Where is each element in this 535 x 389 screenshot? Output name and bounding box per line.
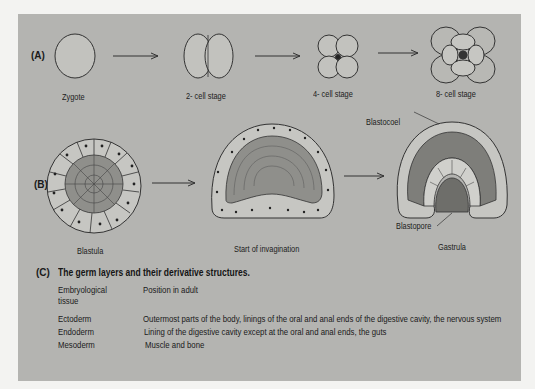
eight-cell-illustration (431, 27, 495, 83)
germ-layers-title: The germ layers and their derivative str… (58, 267, 250, 278)
section-b-label: (B) (34, 179, 48, 190)
section-c-label: (C) (36, 267, 50, 278)
blastopore-pointer (437, 213, 452, 226)
blastocoel-pointer (414, 112, 439, 124)
section-a-label: (A) (31, 50, 45, 61)
annotation-blastopore: Blastopore (396, 221, 431, 231)
table-row-tissue: Mesoderm (58, 339, 95, 350)
stage-label-blastula: Blastula (77, 246, 103, 256)
table-row-position: Muscle and bone (145, 339, 204, 350)
table-row-position: Lining of the digestive cavity except at… (144, 326, 387, 337)
two-cell-illustration (184, 34, 233, 78)
zygote-illustration (55, 34, 95, 78)
blastula-illustration (47, 139, 141, 233)
table-row-tissue: Endoderm (58, 326, 94, 337)
table-row-position: Outermost parts of the body, linings of … (143, 313, 501, 324)
stage-label-4-cell: 4- cell stage (313, 89, 353, 99)
header-tissue-line1: Embryological (58, 284, 107, 295)
stage-label-gastrula: Gastrula (438, 242, 466, 252)
table-row-tissue: Ectoderm (58, 313, 91, 324)
header-position: Position in adult (143, 284, 198, 295)
invagination-illustration (212, 124, 334, 218)
stage-label-invagination: Start of invagination (234, 244, 299, 254)
header-tissue-line2: tissue (58, 295, 78, 306)
four-cell-illustration (318, 35, 358, 78)
annotation-blastocoel: Blastocoel (366, 117, 400, 127)
stage-label-zygote: Zygote (62, 92, 85, 102)
stage-label-8-cell: 8- cell stage (436, 89, 476, 99)
stage-label-2-cell: 2- cell stage (186, 91, 226, 101)
gastrula-illustration (397, 112, 507, 226)
